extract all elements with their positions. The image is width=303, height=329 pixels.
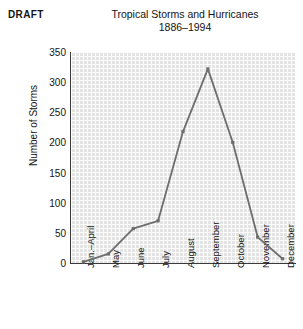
x-tick-label: August (185, 238, 196, 268)
x-tick-label: November (260, 224, 271, 268)
x-tick-label: September (210, 222, 221, 268)
x-axis-ticks: Jan.–AprilMayJuneJulyAugustSeptemberOcto… (0, 0, 303, 329)
chart-figure: DRAFT Tropical Storms and Hurricanes 188… (0, 0, 303, 329)
x-tick-label: June (135, 247, 146, 268)
x-tick-label: May (110, 250, 121, 268)
x-tick-label: December (285, 224, 296, 268)
x-tick-label: Jan.–April (85, 226, 96, 268)
x-tick-label: October (235, 234, 246, 268)
x-tick-label: July (160, 251, 171, 268)
